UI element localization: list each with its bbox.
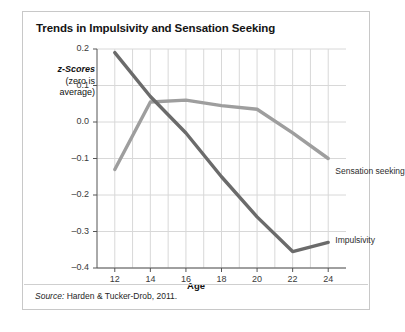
y-tick-label: –0.2 — [59, 189, 89, 199]
y-tick-label: 0.1 — [59, 80, 89, 90]
x-tick-label: 14 — [138, 274, 162, 284]
source-label: Source: — [35, 291, 64, 301]
x-tick-label: 12 — [103, 274, 127, 284]
x-tick-label: 22 — [281, 274, 305, 284]
series-label-sensation-seeking: Sensation seeking — [335, 166, 404, 176]
x-tick-label: 24 — [316, 274, 340, 284]
y-tick-label: 0.2 — [59, 43, 89, 53]
figure-panel: Trends in Impulsivity and Sensation Seek… — [22, 11, 370, 310]
footer-divider — [24, 284, 368, 285]
series-label-impulsivity: Impulsivity — [335, 235, 375, 245]
y-tick-label: 0.0 — [59, 116, 89, 126]
x-tick-label: 18 — [210, 274, 234, 284]
x-tick-label: 16 — [174, 274, 198, 284]
source-citation: Harden & Tucker-Drob, 2011. — [67, 291, 177, 301]
y-tick-label: –0.4 — [59, 262, 89, 272]
x-tick-label: 20 — [245, 274, 269, 284]
y-tick-label: –0.1 — [59, 153, 89, 163]
source-note: Source: Harden & Tucker-Drob, 2011. — [35, 291, 177, 301]
y-tick-label: –0.3 — [59, 226, 89, 236]
